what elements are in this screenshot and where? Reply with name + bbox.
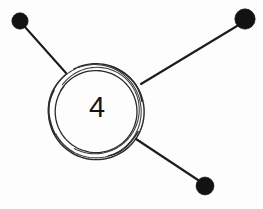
node-link-diagram: 4 bbox=[0, 0, 263, 209]
node-top-left[interactable] bbox=[12, 13, 28, 29]
node-top-right[interactable] bbox=[235, 9, 255, 29]
hub-label: 4 bbox=[89, 91, 105, 123]
diagram-canvas: 4 bbox=[0, 0, 263, 209]
hub-node[interactable]: 4 bbox=[48, 64, 144, 160]
node-bottom-right[interactable] bbox=[196, 177, 214, 195]
